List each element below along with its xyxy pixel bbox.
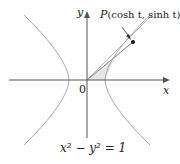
x-axis-label: x	[163, 84, 169, 97]
diagram-graphic	[0, 0, 180, 164]
asymptote	[87, 14, 153, 80]
origin-label: 0	[79, 83, 86, 96]
y-axis-label: y	[77, 6, 83, 19]
y-axis-arrow-icon	[84, 11, 90, 18]
point-label-body: (cosh t, sinh t)	[107, 9, 180, 20]
equation-label: x² − y² = 1	[60, 141, 126, 155]
radius-line	[87, 42, 133, 80]
point-p	[131, 40, 135, 44]
x-axis-arrow-icon	[163, 77, 170, 83]
hyperbola-diagram: P(cosh t, sinh t) y x 0 x² − y² = 1	[0, 0, 180, 164]
point-label: P(cosh t, sinh t)	[100, 8, 180, 21]
